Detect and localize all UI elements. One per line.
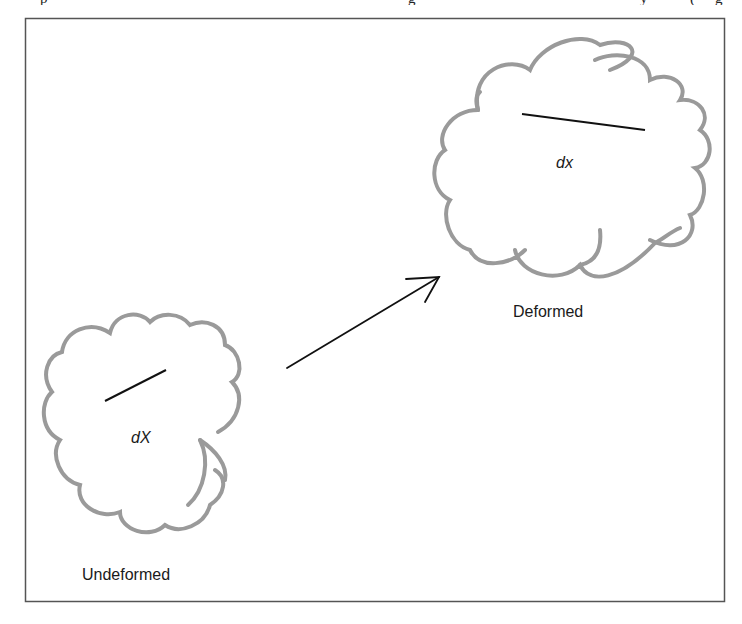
undeformed-segment-dX [105,370,166,401]
deformed-segment-label: dx [556,154,573,172]
undeformed-body-outline [44,315,240,533]
undeformed-segment-label: dX [131,429,151,447]
deformed-label: Deformed [513,303,583,321]
undeformed-label: Undeformed [82,566,170,584]
figure-frame [26,19,725,602]
deformed-segment-dx [522,114,645,130]
deformation-diagram [0,0,742,624]
deformation-arrow [287,277,439,368]
